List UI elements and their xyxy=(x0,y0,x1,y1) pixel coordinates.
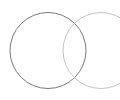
diagram-canvas xyxy=(0,0,120,100)
right-circle-shape xyxy=(63,13,120,89)
left-circle-shape xyxy=(10,13,86,89)
venn-diagram xyxy=(0,0,120,100)
